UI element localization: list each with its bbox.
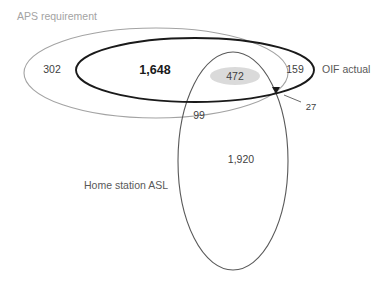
count-oif-only: 159: [286, 63, 304, 75]
count-oif-asl: 27: [306, 101, 317, 112]
count-aps-only: 302: [43, 63, 61, 75]
label-aps-requirement: APS requirement: [17, 10, 97, 22]
count-triple-overlap: 472: [226, 70, 244, 82]
label-oif-actual: OIF actual: [322, 63, 370, 75]
count-asl-only: 1,920: [228, 153, 254, 165]
label-home-station-asl: Home station ASL: [84, 179, 168, 191]
count-aps-asl: 99: [193, 109, 205, 121]
venn-diagram: APS requirement OIF actual Home station …: [0, 0, 389, 288]
ellipse-oif-actual: [76, 38, 314, 102]
count-aps-oif: 1,648: [139, 63, 170, 77]
venn-diagram-canvas: APS requirement OIF actual Home station …: [0, 0, 389, 288]
